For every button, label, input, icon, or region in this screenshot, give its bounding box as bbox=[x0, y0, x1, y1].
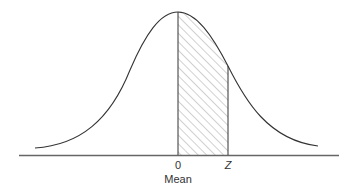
bell-curve bbox=[35, 12, 318, 148]
zero-label: 0 bbox=[175, 159, 181, 171]
mean-label: Mean bbox=[164, 173, 192, 185]
z-label: Z bbox=[224, 159, 233, 171]
normal-curve-diagram: 0 Z Mean bbox=[0, 0, 356, 189]
shaded-area bbox=[35, 12, 318, 156]
